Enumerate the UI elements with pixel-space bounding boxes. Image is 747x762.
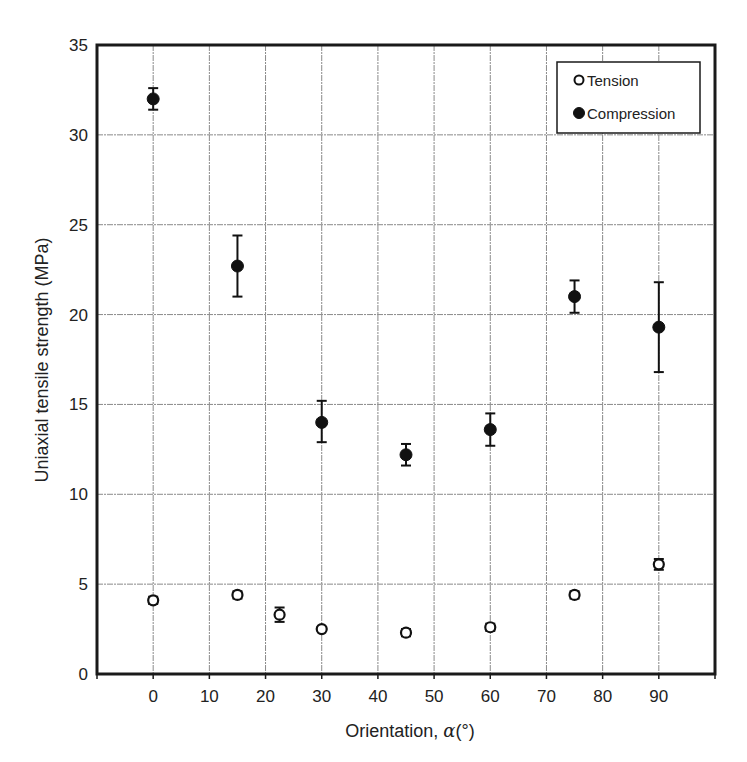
x-tick-label: 60 — [481, 687, 500, 706]
legend-label: Tension — [587, 72, 639, 89]
data-series — [147, 88, 665, 638]
filled-circle-marker — [316, 416, 328, 428]
plot-frame — [97, 45, 715, 674]
open-circle-marker — [148, 595, 158, 605]
filled-circle-marker — [231, 260, 243, 272]
legend: TensionCompression — [557, 62, 700, 133]
y-tick-label: 25 — [69, 216, 88, 235]
open-circle-marker — [275, 610, 285, 620]
filled-circle-marker — [147, 93, 159, 105]
y-tick-label: 10 — [69, 485, 88, 504]
filled-circle-icon — [574, 108, 585, 119]
x-tick-label: 40 — [368, 687, 387, 706]
x-tick-label: 0 — [148, 687, 157, 706]
x-tick-label: 30 — [312, 687, 331, 706]
y-tick-label: 15 — [69, 395, 88, 414]
open-circle-marker — [232, 590, 242, 600]
y-tick-label: 30 — [69, 126, 88, 145]
x-tick-label: 70 — [537, 687, 556, 706]
open-circle-marker — [570, 590, 580, 600]
series-tension — [148, 559, 664, 638]
chart: 0102030405060708090 05101520253035 Tensi… — [0, 0, 747, 762]
x-axis-ticks: 0102030405060708090 — [97, 674, 715, 706]
grid-lines — [97, 45, 715, 674]
x-tick-label: 20 — [256, 687, 275, 706]
open-circle-marker — [317, 624, 327, 634]
open-circle-marker — [401, 628, 411, 638]
y-axis-ticks: 05101520253035 — [69, 36, 88, 684]
legend-label: Compression — [587, 105, 675, 122]
y-axis-title: Uniaxial tensile strength (MPa) — [32, 237, 52, 482]
open-circle-marker — [485, 622, 495, 632]
x-tick-label: 90 — [649, 687, 668, 706]
open-circle-icon — [575, 76, 584, 85]
plot-border — [97, 45, 715, 674]
filled-circle-marker — [484, 424, 496, 436]
y-tick-label: 0 — [79, 665, 88, 684]
x-tick-label: 80 — [593, 687, 612, 706]
filled-circle-marker — [400, 449, 412, 461]
y-tick-label: 20 — [69, 306, 88, 325]
y-tick-label: 35 — [69, 36, 88, 55]
series-compression — [147, 88, 665, 465]
x-tick-label: 50 — [425, 687, 444, 706]
open-circle-marker — [654, 559, 664, 569]
filled-circle-marker — [653, 321, 665, 333]
x-tick-label: 10 — [200, 687, 219, 706]
filled-circle-marker — [569, 291, 581, 303]
x-axis-title: Orientation, α(°) — [345, 720, 474, 741]
y-tick-label: 5 — [79, 575, 88, 594]
